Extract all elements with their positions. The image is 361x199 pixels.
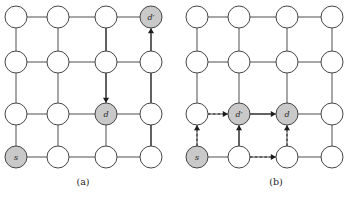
node-r2-c0[interactable] bbox=[186, 103, 208, 125]
panel-b-graph: d′ds bbox=[181, 0, 361, 175]
node-r0-c0[interactable] bbox=[186, 6, 208, 28]
node-r2-c3[interactable] bbox=[321, 103, 343, 125]
node-r3-c2[interactable] bbox=[276, 146, 298, 168]
node-r1-c3[interactable] bbox=[140, 51, 162, 73]
node-circle bbox=[321, 146, 343, 168]
node-s[interactable]: s bbox=[5, 146, 27, 168]
node-r1-c0[interactable] bbox=[186, 51, 208, 73]
node-r3-c3[interactable] bbox=[321, 146, 343, 168]
node-circle bbox=[47, 51, 69, 73]
arrow-dashed-right-to-dprime-head bbox=[223, 111, 228, 117]
node-d-prime[interactable]: d′ bbox=[228, 103, 250, 125]
node-circle bbox=[5, 103, 27, 125]
panel-a-caption: (a) bbox=[0, 176, 173, 187]
node-r1-c2[interactable] bbox=[95, 51, 117, 73]
arrow-down-to-d-head bbox=[103, 98, 109, 103]
node-circle bbox=[321, 51, 343, 73]
node-label: d′ bbox=[236, 110, 243, 119]
arrow-dashed-up-from-s-head bbox=[194, 125, 200, 130]
node-r0-c0[interactable] bbox=[5, 6, 27, 28]
node-label: s bbox=[14, 153, 18, 162]
node-circle bbox=[140, 103, 162, 125]
arrow-up-to-dprime-head bbox=[236, 125, 242, 130]
node-circle bbox=[95, 51, 117, 73]
node-circle bbox=[276, 51, 298, 73]
node-r0-c2[interactable] bbox=[276, 6, 298, 28]
node-circle bbox=[228, 146, 250, 168]
node-r0-c2[interactable] bbox=[95, 6, 117, 28]
node-r1-c1[interactable] bbox=[228, 51, 250, 73]
arrow-up-to-dprime-head bbox=[148, 28, 154, 33]
node-circle bbox=[276, 146, 298, 168]
node-r3-c1[interactable] bbox=[228, 146, 250, 168]
node-circle bbox=[47, 6, 69, 28]
node-r1-c0[interactable] bbox=[5, 51, 27, 73]
node-r0-c1[interactable] bbox=[47, 6, 69, 28]
node-circle bbox=[186, 103, 208, 125]
node-d-prime[interactable]: d′ bbox=[140, 6, 162, 28]
node-r1-c1[interactable] bbox=[47, 51, 69, 73]
arrow-right-to-d-head bbox=[271, 111, 276, 117]
node-circle bbox=[95, 6, 117, 28]
panel-b-caption: (b) bbox=[186, 176, 361, 187]
panel-a: d′ds (a) bbox=[0, 0, 180, 199]
node-label: d bbox=[284, 110, 289, 119]
node-circle bbox=[140, 146, 162, 168]
node-circle bbox=[228, 6, 250, 28]
node-r1-c2[interactable] bbox=[276, 51, 298, 73]
node-r2-c3[interactable] bbox=[140, 103, 162, 125]
node-r2-c1[interactable] bbox=[47, 103, 69, 125]
node-circle bbox=[47, 146, 69, 168]
node-circle bbox=[5, 51, 27, 73]
node-label: s bbox=[195, 153, 199, 162]
node-layer: d′ds bbox=[186, 6, 343, 168]
panel-a-graph: d′ds bbox=[0, 0, 180, 175]
node-circle bbox=[186, 6, 208, 28]
node-r3-c3[interactable] bbox=[140, 146, 162, 168]
node-r3-c1[interactable] bbox=[47, 146, 69, 168]
edge-layer bbox=[197, 17, 332, 157]
node-circle bbox=[5, 6, 27, 28]
node-circle bbox=[321, 6, 343, 28]
node-r0-c1[interactable] bbox=[228, 6, 250, 28]
node-r1-c3[interactable] bbox=[321, 51, 343, 73]
arrow-layer bbox=[103, 28, 154, 146]
node-s[interactable]: s bbox=[186, 146, 208, 168]
node-d[interactable]: d bbox=[276, 103, 298, 125]
node-layer: d′ds bbox=[5, 6, 162, 168]
node-label: d bbox=[103, 110, 108, 119]
node-circle bbox=[95, 146, 117, 168]
figure-container: d′ds (a) d′ds (b) bbox=[0, 0, 361, 199]
node-circle bbox=[228, 51, 250, 73]
node-r2-c0[interactable] bbox=[5, 103, 27, 125]
panel-b: d′ds (b) bbox=[181, 0, 361, 199]
node-r0-c3[interactable] bbox=[321, 6, 343, 28]
arrow-dashed-right-from-s-neighbor-head bbox=[271, 154, 276, 160]
node-circle bbox=[276, 6, 298, 28]
node-d[interactable]: d bbox=[95, 103, 117, 125]
node-label: d′ bbox=[148, 13, 155, 22]
node-r3-c2[interactable] bbox=[95, 146, 117, 168]
node-circle bbox=[140, 51, 162, 73]
arrow-dashed-up-to-d-head bbox=[284, 125, 290, 130]
node-circle bbox=[321, 103, 343, 125]
node-circle bbox=[186, 51, 208, 73]
node-circle bbox=[47, 103, 69, 125]
edge-layer bbox=[16, 17, 151, 157]
